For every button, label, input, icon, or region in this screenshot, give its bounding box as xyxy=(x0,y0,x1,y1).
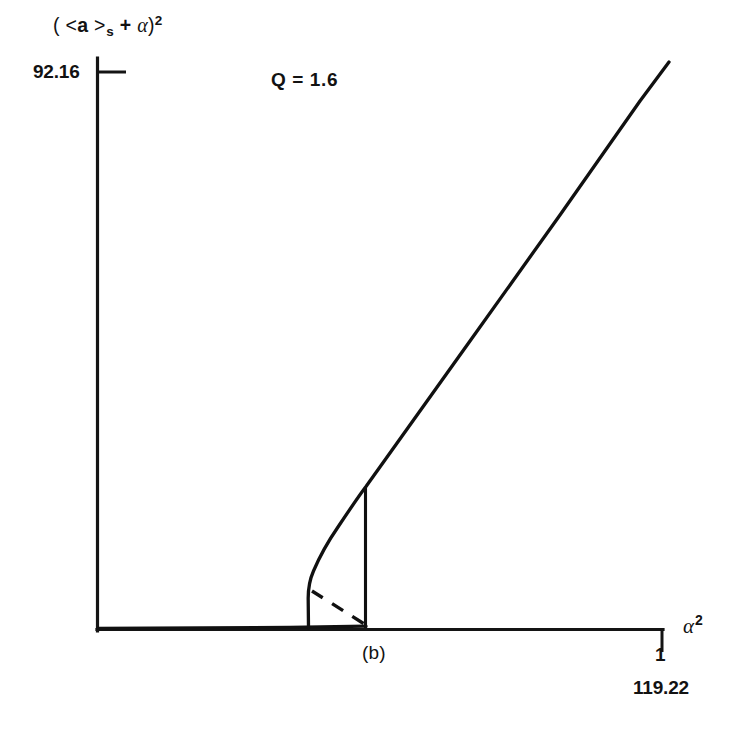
chart-svg xyxy=(0,0,739,750)
y-axis-label-alpha: α xyxy=(137,14,148,36)
y-axis-tick-label: 92.16 xyxy=(33,62,80,81)
y-axis-label-open: ( < xyxy=(53,14,77,36)
y-axis-label-subscript: s xyxy=(106,24,114,39)
y-axis-label-close: ) xyxy=(148,14,155,36)
figure-container: ( <a >s + α)2 92.16 Q = 1.6 α2 1 119.22 … xyxy=(0,0,739,750)
y-axis-label-a: a xyxy=(77,14,88,36)
x-axis-label-alpha: α xyxy=(683,614,694,638)
x-axis-label-exponent: 2 xyxy=(694,612,703,628)
unstable-branch-dashed xyxy=(312,591,365,625)
panel-label: (b) xyxy=(362,643,386,662)
q-parameter-annotation: Q = 1.6 xyxy=(271,70,338,89)
y-axis-label-exponent: 2 xyxy=(155,13,163,28)
upper-stable-branch xyxy=(308,62,669,628)
x-axis-label: α2 xyxy=(683,613,703,637)
y-axis-label: ( <a >s + α)2 xyxy=(53,14,163,39)
y-axis-label-plus: + xyxy=(120,14,132,36)
x-axis-tick-label: 1 xyxy=(655,645,666,664)
y-axis-label-angle: > xyxy=(94,14,106,36)
lower-stable-branch xyxy=(98,626,366,628)
x-axis-tick-sublabel: 119.22 xyxy=(633,678,689,697)
